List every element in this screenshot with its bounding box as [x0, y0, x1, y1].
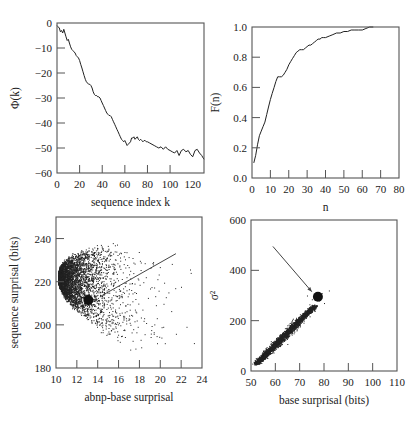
x-tick-label: 70 — [294, 376, 306, 388]
x-tick-label: 70 — [375, 183, 387, 195]
x-tick-label: 60 — [270, 376, 282, 388]
x-tick-label: 90 — [343, 376, 355, 388]
annotation-arrow — [273, 246, 312, 291]
y-tick-label: 0 — [241, 365, 247, 377]
data-line — [254, 27, 373, 163]
y-axis-label: σ² — [208, 290, 220, 300]
x-tick-label: 50 — [338, 183, 350, 195]
x-tick-label: 0 — [249, 183, 255, 195]
x-tick-label: 20 — [283, 183, 295, 195]
x-tick-label: 40 — [97, 178, 109, 190]
x-tick-label: 50 — [246, 376, 258, 388]
y-tick-label: 400 — [230, 264, 247, 276]
y-axis-label: F(n) — [209, 92, 222, 112]
y-tick-label: 200 — [230, 315, 247, 327]
x-tick-label: 10 — [265, 183, 277, 195]
x-axis-label: n — [323, 201, 329, 213]
y-tick-label: −60 — [35, 167, 53, 179]
highlight-point — [83, 295, 93, 305]
x-tick-label: 80 — [142, 178, 154, 190]
x-tick-label: 14 — [92, 373, 104, 385]
x-tick-label: 0 — [54, 178, 60, 190]
x-tick-label: 80 — [394, 183, 406, 195]
x-tick-label: 20 — [155, 373, 167, 385]
x-tick-label: 24 — [197, 373, 209, 385]
y-axis-label: Φ(k) — [9, 87, 22, 109]
highlight-point — [313, 292, 323, 302]
y-tick-label: 240 — [35, 233, 52, 245]
y-tick-label: −20 — [35, 67, 53, 79]
x-axis-label: sequence index k — [91, 196, 170, 209]
x-tick-label: 80 — [319, 376, 331, 388]
x-tick-label: 40 — [320, 183, 332, 195]
cdf-line-chart: 010203040506070800.00.20.40.60.81.0nF(n) — [209, 21, 405, 213]
x-tick-label: 60 — [119, 178, 131, 190]
x-tick-label: 100 — [162, 178, 179, 190]
y-tick-label: −40 — [35, 117, 53, 129]
y-tick-label: 1.0 — [233, 21, 247, 33]
x-tick-label: 100 — [364, 376, 381, 388]
scatter-points — [252, 290, 330, 365]
x-tick-label: 120 — [184, 178, 201, 190]
y-tick-label: 0.0 — [233, 172, 247, 184]
plot-frame — [252, 27, 399, 178]
y-tick-label: 0.2 — [233, 142, 247, 154]
x-axis-label: base surprisal (bits) — [279, 394, 369, 407]
x-axis-label: abnp-base surprisal — [84, 391, 173, 404]
y-tick-label: 180 — [35, 362, 52, 374]
y-tick-label: 0.6 — [233, 81, 247, 93]
x-tick-label: 60 — [357, 183, 369, 195]
x-tick-label: 20 — [74, 178, 86, 190]
x-tick-label: 22 — [176, 373, 187, 385]
y-tick-label: 220 — [35, 276, 52, 288]
y-axis-label: sequence surprisal (bits) — [8, 236, 21, 348]
y-tick-label: −10 — [35, 42, 53, 54]
scatter-points — [58, 243, 195, 351]
variance-scatter-chart: 50607080901001100200400600base surprisal… — [208, 214, 406, 407]
x-tick-label: 18 — [134, 373, 146, 385]
x-tick-label: 30 — [302, 183, 314, 195]
annotation-line — [100, 254, 176, 297]
x-tick-label: 12 — [71, 373, 82, 385]
y-tick-label: 0 — [47, 17, 53, 29]
phi-line-chart: 0204060801001200−10−20−30−40−50−60sequen… — [9, 17, 204, 209]
y-tick-label: −50 — [35, 142, 53, 154]
data-line — [57, 26, 204, 160]
figure-canvas: 0204060801001200−10−20−30−40−50−60sequen… — [0, 0, 418, 425]
surprisal-scatter-chart: 1012141618202224180200220240abnp-base su… — [8, 217, 208, 404]
y-tick-label: −30 — [35, 92, 53, 104]
x-tick-label: 10 — [51, 373, 63, 385]
y-tick-label: 0.8 — [233, 51, 247, 63]
y-tick-label: 200 — [35, 319, 52, 331]
y-tick-label: 0.4 — [233, 112, 247, 124]
x-tick-label: 110 — [389, 376, 406, 388]
x-tick-label: 16 — [113, 373, 125, 385]
y-tick-label: 600 — [230, 214, 247, 226]
